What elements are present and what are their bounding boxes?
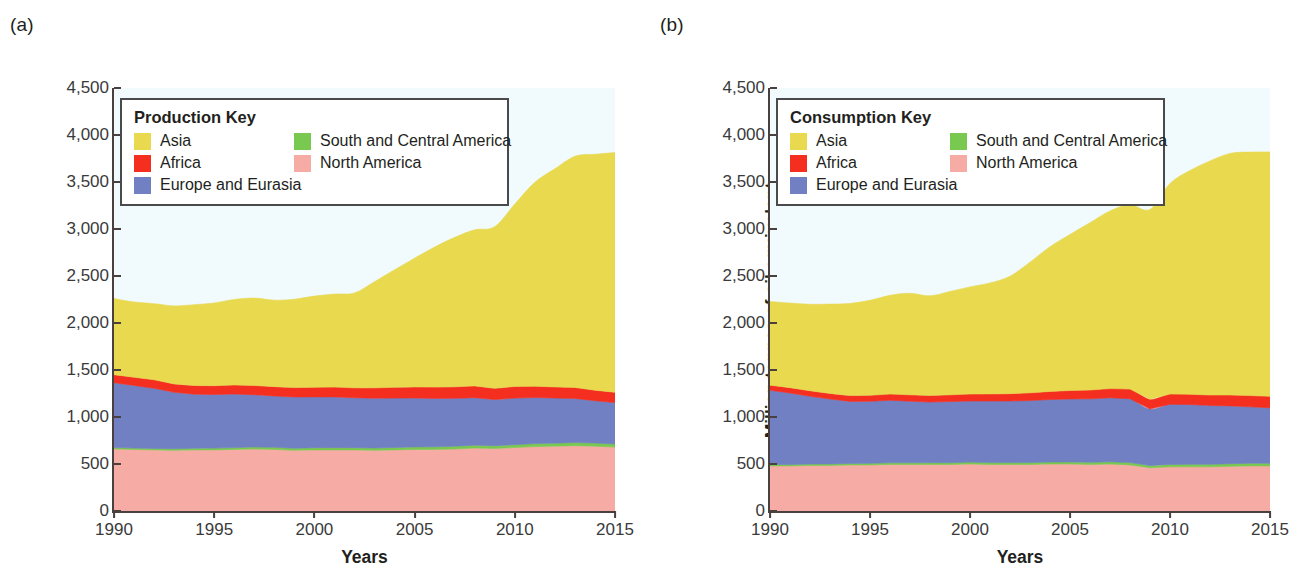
x-axis-tick: 1990 [751,511,789,540]
x-axis-tick-label: 1995 [851,520,889,540]
y-axis-tick-label: 1,000 [53,407,114,427]
x-axis-tick-mark [1269,511,1271,518]
y-axis-tick-label: 4,000 [709,125,770,145]
plot-area-a: Production Key Asia South and Central Am… [112,88,615,513]
y-axis-tick-mark [114,369,121,371]
y-axis-tick-label: 3,000 [53,219,114,239]
x-axis-tick: 2000 [295,511,333,540]
y-axis-tick: 1,000 [53,407,114,427]
panel-consumption: (b) Million tonnes of oil equivalent Con… [650,0,1299,588]
y-axis-tick-label: 2,000 [53,313,114,333]
x-axis-tick: 1990 [95,511,133,540]
x-axis-tick-label: 2000 [295,520,333,540]
x-axis-tick: 2015 [1251,511,1289,540]
x-axis-tick-label: 2015 [596,520,634,540]
legend-label-north-america: North America [976,154,1077,172]
y-axis-tick-label: 2,000 [709,313,770,333]
x-axis-tick: 2010 [496,511,534,540]
legend-item-asia: Asia [790,132,950,150]
legend-item-africa: Africa [134,154,294,172]
legend-label-south-central-america: South and Central America [320,132,511,150]
legend-rows-b: Asia South and Central America Africa No… [790,132,1151,194]
y-axis-tick-mark [770,275,777,277]
y-axis-tick-mark [770,228,777,230]
legend-item-europe-eurasia: Europe and Eurasia [134,176,495,194]
y-axis-tick-mark [114,463,121,465]
legend-item-south-central-america: South and Central America [294,132,511,150]
y-axis-tick-label: 500 [709,454,770,474]
legend-item-north-america: North America [294,154,495,172]
y-axis-tick-label: 1,500 [53,360,114,380]
area-series-north-america [770,464,1270,511]
x-axis-tick-label: 2010 [496,520,534,540]
y-axis-tick: 4,500 [709,78,770,98]
y-axis-tick: 500 [53,454,114,474]
legend-row: Asia South and Central America [790,132,1151,150]
y-axis-tick-mark [770,416,777,418]
x-axis-tick-label: 2015 [1251,520,1289,540]
x-axis-tick-label: 1990 [95,520,133,540]
y-axis-tick-mark [114,416,121,418]
y-axis-tick: 2,000 [53,313,114,333]
x-axis-tick-mark [614,511,616,518]
y-axis-tick: 2,500 [53,266,114,286]
y-axis-tick-mark [114,322,121,324]
x-axis-tick-mark [1069,511,1071,518]
y-axis-tick-label: 3,000 [709,219,770,239]
legend-label-asia: Asia [816,132,847,150]
x-axis-tick-mark [969,511,971,518]
y-axis-tick: 4,000 [709,125,770,145]
swatch-south-central-america-icon [294,133,311,150]
y-axis-tick: 2,000 [709,313,770,333]
legend-item-north-america: North America [950,154,1151,172]
y-axis-tick-mark [770,87,777,89]
swatch-europe-eurasia-icon [790,177,807,194]
swatch-asia-icon [134,133,151,150]
x-axis-tick-mark [869,511,871,518]
legend-row: Africa North America [790,154,1151,172]
x-axis-tick-mark [113,511,115,518]
x-axis-tick-mark [213,511,215,518]
legend-rows-a: Asia South and Central America Africa No… [134,132,495,194]
y-axis-tick: 1,000 [709,407,770,427]
x-axis-tick: 1995 [195,511,233,540]
x-axis-tick-label: 2010 [1151,520,1189,540]
y-axis-tick-label: 4,500 [709,78,770,98]
plot-area-b: Consumption Key Asia South and Central A… [768,88,1270,513]
y-axis-tick-label: 4,000 [53,125,114,145]
swatch-north-america-icon [950,155,967,172]
legend-production: Production Key Asia South and Central Am… [120,98,509,206]
x-axis-tick: 2010 [1151,511,1189,540]
x-axis-tick: 2015 [596,511,634,540]
swatch-europe-eurasia-icon [134,177,151,194]
swatch-africa-icon [790,155,807,172]
legend-row: Asia South and Central America [134,132,495,150]
x-axis-tick-mark [514,511,516,518]
x-axis-tick-label: 1990 [751,520,789,540]
y-axis-tick: 3,500 [53,172,114,192]
legend-row: Europe and Eurasia [134,176,495,194]
swatch-south-central-america-icon [950,133,967,150]
swatch-africa-icon [134,155,151,172]
x-axis-tick-label: 2005 [1051,520,1089,540]
x-axis-tick-mark [414,511,416,518]
panel-label-b: (b) [660,14,684,36]
x-axis-tick: 2005 [1051,511,1089,540]
x-axis-tick-label: 2000 [951,520,989,540]
y-axis-tick-label: 3,500 [53,172,114,192]
legend-item-asia: Asia [134,132,294,150]
legend-label-europe-eurasia: Europe and Eurasia [160,176,301,194]
x-axis-tick: 1995 [851,511,889,540]
y-axis-tick: 3,500 [709,172,770,192]
legend-row: Africa North America [134,154,495,172]
y-axis-tick: 1,500 [53,360,114,380]
y-axis-tick-mark [770,322,777,324]
y-axis-tick: 4,000 [53,125,114,145]
y-axis-tick: 500 [709,454,770,474]
swatch-north-america-icon [294,155,311,172]
x-axis-tick: 2005 [396,511,434,540]
legend-label-north-america: North America [320,154,421,172]
y-axis-tick-label: 1,000 [709,407,770,427]
legend-consumption: Consumption Key Asia South and Central A… [776,98,1165,206]
x-axis-tick-mark [1169,511,1171,518]
